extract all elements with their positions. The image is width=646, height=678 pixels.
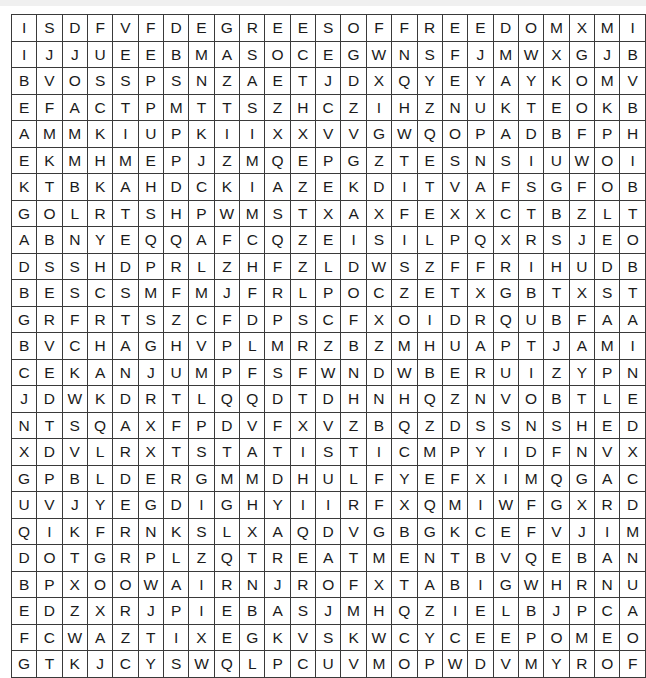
grid-cell[interactable]: M	[189, 280, 214, 307]
grid-cell[interactable]: N	[341, 359, 366, 386]
grid-cell[interactable]: E	[392, 545, 417, 572]
grid-cell[interactable]: Q	[87, 412, 112, 439]
grid-cell[interactable]: D	[493, 15, 518, 42]
grid-cell[interactable]: F	[366, 465, 391, 492]
grid-cell[interactable]: H	[290, 94, 315, 121]
grid-cell[interactable]: F	[442, 41, 467, 68]
grid-cell[interactable]: I	[341, 227, 366, 254]
grid-cell[interactable]: P	[138, 253, 163, 280]
grid-cell[interactable]: W	[518, 41, 543, 68]
grid-cell[interactable]: D	[62, 15, 87, 42]
grid-cell[interactable]: J	[468, 41, 493, 68]
grid-cell[interactable]: E	[214, 624, 239, 651]
grid-cell[interactable]: K	[12, 174, 37, 201]
grid-cell[interactable]: M	[417, 439, 442, 466]
grid-cell[interactable]: P	[442, 227, 467, 254]
grid-cell[interactable]: Z	[417, 94, 442, 121]
grid-cell[interactable]: G	[214, 15, 239, 42]
grid-cell[interactable]: J	[214, 280, 239, 307]
grid-cell[interactable]: A	[12, 121, 37, 148]
grid-cell[interactable]: Q	[240, 386, 265, 413]
grid-cell[interactable]: L	[315, 253, 340, 280]
grid-cell[interactable]: P	[163, 147, 188, 174]
grid-cell[interactable]: N	[138, 518, 163, 545]
grid-cell[interactable]: E	[468, 15, 493, 42]
grid-cell[interactable]: T	[163, 386, 188, 413]
grid-cell[interactable]: V	[315, 412, 340, 439]
grid-cell[interactable]: I	[620, 147, 646, 174]
grid-cell[interactable]: S	[315, 439, 340, 466]
grid-cell[interactable]: P	[468, 121, 493, 148]
grid-cell[interactable]: P	[595, 359, 620, 386]
grid-cell[interactable]: I	[189, 492, 214, 519]
grid-cell[interactable]: E	[493, 624, 518, 651]
grid-cell[interactable]: R	[265, 280, 290, 307]
grid-cell[interactable]: E	[595, 624, 620, 651]
grid-cell[interactable]: F	[366, 492, 391, 519]
grid-cell[interactable]: Z	[417, 253, 442, 280]
grid-cell[interactable]: P	[417, 651, 442, 678]
grid-cell[interactable]: X	[240, 518, 265, 545]
grid-cell[interactable]: Y	[468, 68, 493, 95]
grid-cell[interactable]: I	[493, 439, 518, 466]
grid-cell[interactable]: O	[341, 15, 366, 42]
grid-cell[interactable]: W	[138, 571, 163, 598]
grid-cell[interactable]: E	[189, 15, 214, 42]
grid-cell[interactable]: P	[138, 94, 163, 121]
grid-cell[interactable]: M	[595, 333, 620, 360]
grid-cell[interactable]: U	[544, 147, 569, 174]
grid-cell[interactable]: C	[315, 94, 340, 121]
grid-cell[interactable]: T	[189, 94, 214, 121]
grid-cell[interactable]: E	[138, 41, 163, 68]
grid-cell[interactable]: L	[189, 386, 214, 413]
grid-cell[interactable]: Q	[290, 518, 315, 545]
grid-cell[interactable]: N	[442, 94, 467, 121]
grid-cell[interactable]: G	[544, 492, 569, 519]
grid-cell[interactable]: I	[240, 174, 265, 201]
grid-cell[interactable]: X	[62, 571, 87, 598]
grid-cell[interactable]: P	[37, 571, 62, 598]
grid-cell[interactable]: E	[417, 280, 442, 307]
grid-cell[interactable]: S	[113, 68, 138, 95]
grid-cell[interactable]: P	[493, 333, 518, 360]
grid-cell[interactable]: X	[87, 598, 112, 625]
grid-cell[interactable]: B	[518, 280, 543, 307]
grid-cell[interactable]: X	[620, 439, 646, 466]
grid-cell[interactable]: X	[265, 121, 290, 148]
grid-cell[interactable]: P	[163, 598, 188, 625]
grid-cell[interactable]: I	[392, 174, 417, 201]
grid-cell[interactable]: C	[468, 518, 493, 545]
grid-cell[interactable]: Q	[417, 492, 442, 519]
grid-cell[interactable]: Q	[163, 227, 188, 254]
grid-cell[interactable]: Q	[392, 598, 417, 625]
grid-cell[interactable]: N	[366, 386, 391, 413]
grid-cell[interactable]: F	[392, 200, 417, 227]
grid-cell[interactable]: F	[214, 306, 239, 333]
grid-cell[interactable]: C	[620, 465, 646, 492]
grid-cell[interactable]: I	[620, 333, 646, 360]
grid-cell[interactable]: I	[442, 598, 467, 625]
grid-cell[interactable]: D	[12, 545, 37, 572]
grid-cell[interactable]: X	[569, 15, 594, 42]
grid-cell[interactable]: Y	[138, 651, 163, 678]
grid-cell[interactable]: S	[290, 598, 315, 625]
grid-cell[interactable]: I	[366, 94, 391, 121]
grid-cell[interactable]: G	[189, 465, 214, 492]
grid-cell[interactable]: I	[240, 121, 265, 148]
grid-cell[interactable]: J	[87, 651, 112, 678]
grid-cell[interactable]: J	[569, 227, 594, 254]
grid-cell[interactable]: C	[189, 174, 214, 201]
grid-cell[interactable]: F	[290, 359, 315, 386]
grid-cell[interactable]: G	[366, 121, 391, 148]
grid-cell[interactable]: M	[37, 121, 62, 148]
grid-cell[interactable]: F	[341, 571, 366, 598]
grid-cell[interactable]: S	[265, 200, 290, 227]
grid-cell[interactable]: N	[113, 359, 138, 386]
grid-cell[interactable]: R	[569, 651, 594, 678]
grid-cell[interactable]: H	[138, 174, 163, 201]
grid-cell[interactable]: G	[12, 306, 37, 333]
grid-cell[interactable]: X	[189, 624, 214, 651]
grid-cell[interactable]: M	[544, 15, 569, 42]
grid-cell[interactable]: V	[189, 333, 214, 360]
grid-cell[interactable]: E	[12, 94, 37, 121]
